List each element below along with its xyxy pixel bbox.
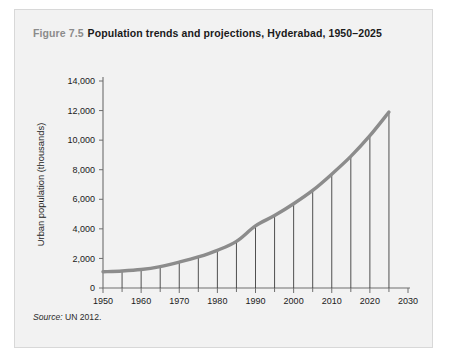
x-tick-label: 1990 <box>245 296 265 306</box>
x-tick-label: 2010 <box>322 296 342 306</box>
y-tick-label: 12,000 <box>67 106 95 116</box>
x-tick-label: 2030 <box>398 296 418 306</box>
y-axis-title: Urban population (thousands) <box>35 123 46 247</box>
chart-plot-area: 02,0004,0006,0008,00010,00012,00014,000U… <box>0 0 461 364</box>
x-tick-label: 1960 <box>131 296 151 306</box>
y-tick-label: 6,000 <box>72 194 95 204</box>
x-tick-label: 2020 <box>360 296 380 306</box>
x-tick-label: 1950 <box>93 296 113 306</box>
x-tick-label: 1970 <box>169 296 189 306</box>
line-chart: 02,0004,0006,0008,00010,00012,00014,000U… <box>0 0 461 364</box>
axis-lines <box>103 77 410 288</box>
y-tick-label: 0 <box>90 283 95 293</box>
y-tick-label: 4,000 <box>72 224 95 234</box>
y-tick-label: 8,000 <box>72 165 95 175</box>
x-tick-label: 2000 <box>284 296 304 306</box>
population-series-line <box>103 112 389 272</box>
y-tick-label: 2,000 <box>72 254 95 264</box>
y-tick-label: 14,000 <box>67 76 95 86</box>
x-tick-label: 1980 <box>207 296 227 306</box>
y-tick-label: 10,000 <box>67 135 95 145</box>
